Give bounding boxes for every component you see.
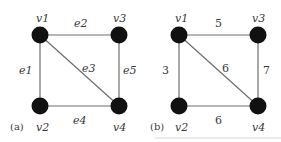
graph-figure: v1 v2 v3 v4 e1 e2 e3 e4 e5 (a) v1 v2 v3 … <box>0 0 281 142</box>
edge-label-e1: e1 <box>19 64 33 77</box>
vertex-label-v2: v2 <box>36 121 49 134</box>
edge-label-e5: e5 <box>123 64 137 77</box>
vertex-label-v3: v3 <box>252 12 265 25</box>
vertex-v4 <box>111 98 128 115</box>
vertex-label-v1: v1 <box>175 12 188 25</box>
edge-weight-v2-v4: 6 <box>215 114 222 127</box>
edge-label-e4: e4 <box>73 114 87 127</box>
vertex-v3 <box>250 27 267 44</box>
edge-weight-v1-v4: 6 <box>222 62 229 75</box>
edge-label-e3: e3 <box>82 62 96 75</box>
vertex-label-v1: v1 <box>36 12 49 25</box>
edge-weight-v1-v2: 3 <box>162 64 169 77</box>
panel-b: v1 v2 v3 v4 3 5 6 6 7 (b) <box>150 12 270 134</box>
panel-caption-a: (a) <box>10 121 24 132</box>
vertex-label-v3: v3 <box>113 12 126 25</box>
vertex-v2 <box>32 98 49 115</box>
vertex-label-v4: v4 <box>113 121 126 134</box>
vertex-v1 <box>171 27 188 44</box>
vertex-v3 <box>111 27 128 44</box>
panel-a: v1 v2 v3 v4 e1 e2 e3 e4 e5 (a) <box>10 12 137 134</box>
edge-label-e2: e2 <box>74 17 88 30</box>
vertex-v2 <box>171 98 188 115</box>
panel-caption-b: (b) <box>150 121 164 132</box>
vertex-v4 <box>250 98 267 115</box>
edge-weight-v1-v3: 5 <box>215 17 222 30</box>
edge-weight-v3-v4: 7 <box>263 64 270 77</box>
vertex-label-v4: v4 <box>252 121 265 134</box>
edge-v1-v4 <box>179 35 258 106</box>
vertex-v1 <box>32 27 49 44</box>
edge-e3 <box>40 35 119 106</box>
vertex-label-v2: v2 <box>175 121 188 134</box>
